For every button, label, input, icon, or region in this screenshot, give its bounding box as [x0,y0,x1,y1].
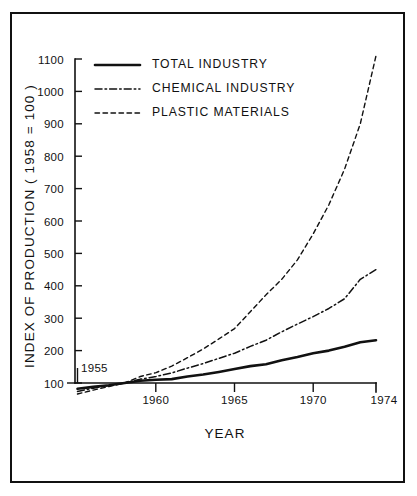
x-tick-label-1960: 1960 [142,394,169,406]
x-axis-ticks [156,383,313,392]
figure-page: 1100 1000 900 800 700 600 500 400 300 20… [0,0,417,496]
y-tick-label-900: 900 [44,118,64,130]
series-line-total-industry [78,340,377,389]
x-tick-label-1970: 1970 [300,394,327,406]
start-year-label: 1955 [81,362,108,374]
y-tick-label-700: 700 [44,183,64,195]
y-tick-label-800: 800 [44,151,64,163]
x-tick-label-1965: 1965 [221,394,248,406]
y-tick-label-1100: 1100 [38,54,64,66]
y-axis-tick-labels: 1100 1000 900 800 700 600 500 400 300 20… [37,54,64,390]
x-axis-title: YEAR [204,426,245,441]
legend-label-plastic-materials: PLASTIC MATERIALS [152,105,290,119]
y-tick-label-600: 600 [44,216,64,228]
legend-label-chemical-industry: CHEMICAL INDUSTRY [152,81,295,95]
y-axis-title: INDEX OF PRODUCTION ( 1958 = 100 ) [22,84,37,368]
series-line-chemical-industry [78,270,377,392]
y-tick-label-500: 500 [44,248,64,260]
line-chart: 1100 1000 900 800 700 600 500 400 300 20… [12,14,403,481]
x-axis-tick-labels: 1960 1965 1970 1974 [142,394,397,406]
y-tick-label-400: 400 [44,280,64,292]
legend: TOTAL INDUSTRY CHEMICAL INDUSTRY PLASTIC… [95,57,295,119]
start-year-annotation: 1955 [78,362,108,383]
figure-border: 1100 1000 900 800 700 600 500 400 300 20… [10,12,405,483]
legend-label-total-industry: TOTAL INDUSTRY [152,57,268,71]
y-tick-label-200: 200 [44,345,64,357]
y-tick-label-100: 100 [44,378,64,390]
y-tick-label-300: 300 [44,313,64,325]
y-tick-label-1000: 1000 [37,86,64,98]
x-tick-label-1974: 1974 [371,394,398,406]
